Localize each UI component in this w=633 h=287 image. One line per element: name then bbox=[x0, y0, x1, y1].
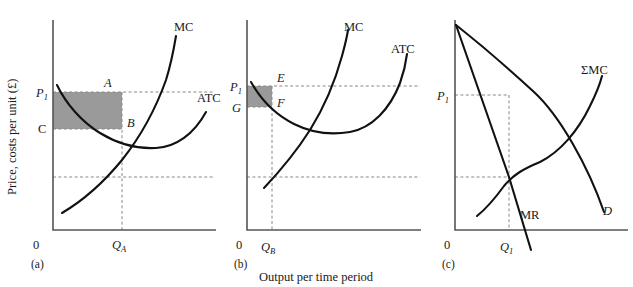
panel-a-atc-label: ATC bbox=[197, 91, 221, 105]
panel-a-quantity-tick: QA bbox=[112, 238, 127, 254]
panel-b-point-f-label: F bbox=[276, 96, 285, 110]
y-axis-label: Price, costs per unit (£) bbox=[5, 79, 19, 195]
panel-c-demand-label: D bbox=[602, 204, 612, 218]
panel-a: P1 C A B MC ATC 0 QA (a) bbox=[31, 20, 221, 271]
panel-a-point-a-label: A bbox=[103, 76, 112, 90]
panel-b-quantity-tick: QB bbox=[261, 240, 275, 256]
panel-b-origin-label: 0 bbox=[236, 238, 242, 252]
figure-container: Price, costs per unit (£) P1 C A B MC AT… bbox=[0, 0, 633, 287]
panel-a-point-b-label: B bbox=[127, 116, 135, 130]
panel-b-atc-label: ATC bbox=[391, 42, 415, 56]
x-axis-label: Output per time period bbox=[259, 270, 374, 284]
panel-a-cost-label: C bbox=[38, 122, 46, 136]
panel-a-price-label: P1 bbox=[35, 86, 48, 102]
panel-b-price-label: P1 bbox=[229, 80, 242, 96]
panel-b-tag: (b) bbox=[234, 258, 248, 271]
panel-b-cost-label: G bbox=[232, 101, 241, 115]
panel-a-mc-label: MC bbox=[174, 20, 193, 34]
panel-c-price-label: P1 bbox=[436, 89, 449, 105]
economics-diagram: Price, costs per unit (£) P1 C A B MC AT… bbox=[0, 0, 633, 287]
panel-c-tag: (c) bbox=[442, 258, 455, 271]
panel-a-tag: (a) bbox=[31, 258, 44, 271]
panel-c-quantity-tick: Q1 bbox=[500, 240, 513, 256]
panel-c-origin-label: 0 bbox=[444, 238, 450, 252]
panel-c-mr-label: MR bbox=[520, 208, 540, 222]
panel-c: P1 ΣMC MR D 0 Q1 (c) bbox=[436, 20, 628, 271]
panel-b-point-e-label: E bbox=[276, 71, 285, 85]
panel-b: P1 G E F MC ATC 0 QB (b) bbox=[229, 20, 421, 271]
panel-a-origin-label: 0 bbox=[33, 238, 39, 252]
panel-c-summc-label: ΣMC bbox=[581, 63, 608, 77]
panel-c-demand-curve bbox=[456, 25, 604, 212]
panel-c-axes bbox=[455, 20, 628, 230]
panel-b-mc-label: MC bbox=[344, 20, 363, 34]
